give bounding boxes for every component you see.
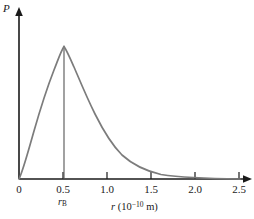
xtick-label-0: 0 [9, 184, 29, 195]
x-axis-caption-units-close: m) [144, 201, 158, 212]
xtick-label-2: 1.0 [95, 184, 119, 195]
bohr-radius-label-subscript: B [62, 200, 67, 208]
xtick-label-3: 1.5 [139, 184, 163, 195]
x-axis-caption-units-open: (10 [115, 201, 132, 212]
x-axis-caption-exponent: −10 [132, 200, 144, 209]
xtick-label-5: 2.5 [227, 184, 251, 195]
xtick-label-4: 2.0 [183, 184, 207, 195]
probability-curve [19, 47, 240, 180]
xtick-label-1: 0.5 [51, 184, 75, 195]
bohr-radius-label: rB [58, 197, 67, 208]
plot-area [0, 0, 254, 219]
y-axis-label: P [3, 3, 10, 14]
radial-probability-figure: P 0 0.5 1.0 1.5 2.0 2.5 rB r (10−10 m) [0, 0, 254, 219]
y-axis [15, 7, 23, 179]
x-axis-caption: r (10−10 m) [111, 201, 158, 213]
